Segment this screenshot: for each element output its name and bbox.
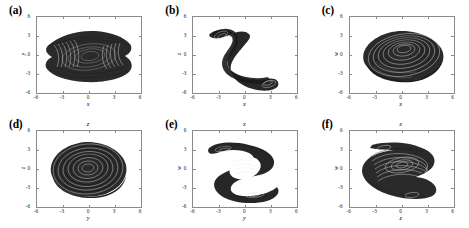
panel-e-xlabel: y [243,214,246,221]
panel-d-xlabel: y [87,214,90,221]
panel-e-xtick-m6: -6 [190,208,194,214]
panel-b-xtick-3: 3 [269,94,272,100]
panel-c-xtick-3: 3 [425,94,428,100]
panel-a-xtick-m3: -3 [60,94,64,100]
panel-a-ylabel: y [19,53,26,56]
panel-label-a: (a) [9,4,22,16]
panel-a-xtick-3: 3 [113,94,116,100]
panel-f-xtick-m3: -3 [372,208,376,214]
panel-label-b: (b) [165,4,178,16]
panel-a-xtick-6: 6 [139,94,142,100]
panel-d-attractor [37,131,141,207]
panel-b-xtick-m6: -6 [190,94,194,100]
panel-f-attractor [350,131,454,207]
panel-b-plot-area [192,16,298,94]
panel-d-xtick-m3: -3 [60,208,64,214]
panel-b-attractor [193,17,297,93]
panel-e: (e) x 6 3 0 -3 -6 -6 -3 0 3 6 y w [156,114,312,228]
panel-c-xtick-6: 6 [451,94,454,100]
panel-d-xtick-3: 3 [113,208,116,214]
panel-c-xtick-m3: -3 [372,94,376,100]
panel-e-plot-area [192,130,298,208]
panel-d-top-label: z [87,120,89,127]
panel-label-e: (e) [165,118,177,130]
panel-b-xtick-6: 6 [295,94,298,100]
panel-d: (d) z 6 3 0 -3 -6 -6 -3 0 3 6 y z [0,114,156,228]
panel-d-plot-area [36,130,142,208]
panel-a-xlabel: x [87,100,90,107]
panel-label-d: (d) [9,118,22,130]
panel-f: (f) x 6 3 0 -3 -6 -6 -3 0 3 6 z w [313,114,469,228]
panel-b-xtick-m3: -3 [216,94,220,100]
panel-e-xtick-6: 6 [295,208,298,214]
panel-a-plot-area [36,16,142,94]
panel-c-plot-area [349,16,455,94]
panel-e-attractor [193,131,297,207]
panel-f-xtick-3: 3 [425,208,428,214]
panel-a: (a) 6 3 0 -3 -6 -6 -3 0 3 6 x y [0,0,156,114]
phase-portrait-figure: (a) 6 3 0 -3 -6 -6 -3 0 3 6 x y [0,0,469,228]
panel-a-xtick-m6: -6 [34,94,38,100]
panel-c: (c) 6 3 0 -3 -6 -6 -3 0 3 6 x w [313,0,469,114]
panel-e-xtick-3: 3 [269,208,272,214]
panel-f-xlabel: z [399,214,401,221]
panel-label-c: (c) [322,4,334,16]
panel-e-xtick-m3: -3 [216,208,220,214]
panel-f-xtick-6: 6 [451,208,454,214]
panel-c-xtick-m6: -6 [346,94,350,100]
panel-b-ylabel: z [175,53,182,55]
panel-b: (b) 6 3 0 -3 -6 -6 -3 0 3 6 x z [156,0,312,114]
panel-e-top-label: x [243,120,246,127]
panel-a-attractor [37,17,141,93]
panel-c-xlabel: x [399,100,402,107]
panel-d-xtick-6: 6 [139,208,142,214]
panel-f-ylabel: w [331,166,338,170]
panel-c-attractor [350,17,454,93]
panel-b-xlabel: x [243,100,246,107]
panel-f-xtick-m6: -6 [346,208,350,214]
panel-d-ylabel: z [19,167,26,169]
panel-d-xtick-m6: -6 [34,208,38,214]
panel-label-f: (f) [322,118,333,130]
panel-f-plot-area [349,130,455,208]
panel-c-ylabel: w [331,52,338,56]
panel-e-ylabel: w [175,166,182,170]
panel-f-top-label: x [399,120,402,127]
